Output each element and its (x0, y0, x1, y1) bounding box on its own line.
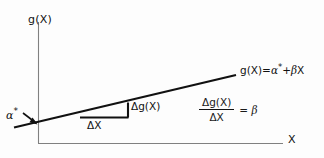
intercept-label: α* (6, 110, 18, 121)
equation-plus: + (282, 64, 291, 76)
x-axis-label: X (288, 134, 296, 145)
intercept-star-superscript: * (13, 106, 18, 116)
equation-alpha-symbol: α (271, 64, 278, 76)
slope-fraction: Δg(X) ΔX (199, 96, 234, 123)
slope-ratio-equals: = (239, 104, 248, 116)
slope-fraction-denominator: ΔX (206, 110, 226, 123)
equation-lhs: g(X) (240, 64, 262, 76)
slope-fraction-numerator: Δg(X) (199, 96, 234, 109)
slope-ratio-beta: β (251, 104, 257, 116)
function-equation-label: g(X)=α*+βX (240, 65, 304, 76)
equation-equals: = (262, 64, 271, 76)
y-axis-label: g(X) (28, 14, 52, 25)
slope-intercept-diagram: g(X) X α* g(X)=α*+βX ΔX Δg(X) Δg(X) ΔX =… (0, 0, 324, 158)
delta-x-label: ΔX (87, 120, 101, 131)
slope-ratio-expression: Δg(X) ΔX = β (199, 96, 257, 123)
equation-variable: X (297, 64, 304, 76)
slope-ratio-equals-result: = β (239, 103, 257, 116)
delta-gx-label: Δg(X) (131, 101, 160, 112)
